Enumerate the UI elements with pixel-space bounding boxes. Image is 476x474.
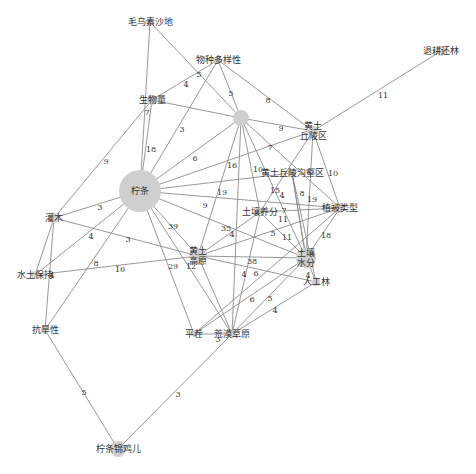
edge-weight-label: 5 <box>228 89 233 98</box>
edge-weight-label: 29 <box>168 262 178 271</box>
node-label-rengong: 人工林 <box>303 276 330 287</box>
edge-weight-label: 7 <box>281 206 286 215</box>
edge-weight-label: 19 <box>307 195 317 204</box>
node-unnamed <box>233 110 249 126</box>
edge-unnamed-gaoyuan <box>198 118 241 256</box>
edge-weight-label: 11 <box>378 91 388 100</box>
edge-weight-label: 6 <box>249 295 254 304</box>
edge-weight-label: 3 <box>97 203 102 212</box>
edge-layer <box>35 22 441 449</box>
node-label-shengwu: 生物量 <box>139 94 166 105</box>
edge-weight-label: 4 <box>88 232 93 241</box>
node-label-goubhe: 黄土丘陵沟壑区 <box>261 167 324 178</box>
edge-weight-label: 4 <box>229 230 234 239</box>
edge-weight-label: 5 <box>267 294 272 303</box>
node-label-huangqiuling: 黄土丘陵区 <box>300 120 327 141</box>
edge-weight-label: 9 <box>103 157 108 166</box>
edge-weight-label: 6 <box>253 269 258 278</box>
edge-weight-label: 5 <box>81 388 86 397</box>
edge-weight-label: 18 <box>146 145 156 154</box>
node-label-kanghan: 抗旱性 <box>32 324 59 335</box>
edge-weight-label: 4 <box>272 306 277 315</box>
node-label-maowusu: 毛乌素沙地 <box>128 16 173 27</box>
edge-shuifen-goubhe <box>292 173 306 258</box>
edge-weight-label: 38 <box>247 257 257 266</box>
node-label-ningtiao: 柠条 <box>131 185 149 196</box>
edge-weight-label: 10 <box>115 265 125 274</box>
edge-weight-label: 19 <box>217 188 227 197</box>
edge-guanmu-shuitu <box>35 218 54 275</box>
node-label-pingcha: 平茬 <box>185 328 203 339</box>
node-label-huangmo: 荒漠草原 <box>214 328 250 339</box>
node-label-guanmu: 灌木 <box>45 212 63 223</box>
node-label-shuitu: 水土保持 <box>17 269 53 280</box>
edge-weight-label: 5 <box>270 229 275 238</box>
node-label-jinjier: 柠条锦鸡儿 <box>96 443 141 454</box>
node-label-gaoyuan: 黄土高原 <box>189 245 207 266</box>
node-label-yangfen: 土壤养分 <box>242 206 278 217</box>
node-label-zhibei: 植被类型 <box>322 202 358 213</box>
edge-weight-label: 9 <box>278 124 283 133</box>
edge-weight-label: 4 <box>183 80 188 89</box>
edge-weight-label: 3 <box>179 125 184 134</box>
edge-weight-label: 11 <box>278 215 288 224</box>
edge-weight-label: 4 <box>241 270 246 279</box>
edge-gaoyuan-huangmo <box>198 256 232 334</box>
edge-weight-label: 16 <box>227 161 237 170</box>
edge-maowusu-ningtiao <box>140 22 150 191</box>
edge-weight-label: 5 <box>196 70 201 79</box>
edge-weight-label: 4 <box>279 191 284 200</box>
node-label-tuigeng: 退耕还林 <box>423 45 459 56</box>
edge-weight-label: 7 <box>144 108 149 117</box>
edge-weight-label: 3 <box>125 235 130 244</box>
edge-weight-label: 39 <box>168 222 178 231</box>
edge-weight-label: 8 <box>265 96 270 105</box>
edge-weight-label: 18 <box>321 231 331 240</box>
edge-weight-layer: 1854583117969101915871019416939353294874… <box>49 70 388 399</box>
network-diagram: 1854583117969101915871019416939353294874… <box>0 0 476 474</box>
edge-weight-label: 8 <box>93 259 98 268</box>
edge-weight-label: 8 <box>299 189 304 198</box>
edge-unnamed-huangqiuling <box>241 118 313 131</box>
node-label-wuzhong: 物种多样性 <box>196 54 241 65</box>
edge-weight-label: 3 <box>175 390 180 399</box>
node-label-shuifen: 土壤水分 <box>297 247 315 268</box>
edge-weight-label: 9 <box>202 201 207 210</box>
edge-weight-label: 6 <box>192 154 197 163</box>
edge-weight-label: 10 <box>328 169 338 178</box>
edge-weight-label: 11 <box>282 233 292 242</box>
edge-weight-label: 7 <box>267 143 272 152</box>
